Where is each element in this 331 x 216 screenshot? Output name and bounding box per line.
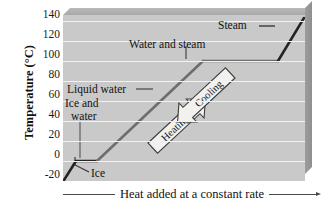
label-ice: Ice: [91, 167, 105, 179]
y-tick-60: 60: [26, 89, 60, 100]
plot-area: Heating Cooling Ice Ice and water Liquid…: [63, 8, 312, 181]
gridline-60: [63, 101, 305, 102]
y-tick-100: 100: [26, 49, 60, 60]
x-axis-rule-left: [63, 194, 115, 195]
y-tick-80: 80: [26, 69, 60, 80]
y-tick-0: 0: [26, 149, 60, 160]
gridline-0: [63, 161, 305, 162]
gridline-140: [63, 21, 305, 22]
label-ice-and-water-line1: Ice and: [65, 97, 99, 109]
curve-segment-steam: [278, 18, 304, 61]
gridline-40: [63, 121, 305, 122]
phase-change-chart-figure: Temperature (°C) 140 120 100 80 60 40 20…: [0, 0, 331, 216]
curve-segment-ice: [64, 161, 76, 180]
x-axis: Heat added at a constant rate: [58, 183, 326, 205]
x-axis-caption: Heat added at a constant rate: [115, 187, 269, 202]
y-tick-neg20: -20: [26, 169, 60, 180]
label-steam: Steam: [218, 19, 247, 31]
gridline-100: [63, 61, 305, 62]
plot-canvas: Heating Cooling Ice Ice and water Liquid…: [63, 15, 305, 181]
label-liquid-water: Liquid water: [67, 83, 126, 95]
y-tick-40: 40: [26, 109, 60, 120]
y-tick-20: 20: [26, 129, 60, 140]
plot-bevel-right: [305, 1, 312, 174]
y-axis-tick-labels: 140 120 100 80 60 40 20 0 -20: [20, 0, 60, 216]
y-tick-140: 140: [26, 9, 60, 20]
label-water-and-steam: Water and steam: [129, 38, 205, 50]
label-ice-and-water-line2: water: [71, 110, 97, 122]
gridline-20: [63, 141, 305, 142]
gridline-80: [63, 81, 305, 82]
ice-leader-line: [75, 157, 89, 172]
y-tick-120: 120: [26, 29, 60, 40]
x-axis-arrowhead-icon: [316, 192, 321, 196]
plot-bevel-top: [63, 8, 312, 15]
x-axis-rule-right: [269, 194, 317, 195]
